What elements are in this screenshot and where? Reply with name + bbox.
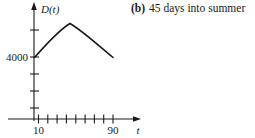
x-tick-label-10: 10 (33, 124, 45, 136)
x-axis-arrowhead (133, 116, 141, 122)
caption-marker: (b) (131, 2, 145, 14)
coordinate-plot: 4000 10 90 D(t) t (0, 0, 255, 138)
x-axis-label: t (136, 124, 140, 136)
y-axis-label: D(t) (40, 3, 60, 16)
y-tick-label-4000: 4000 (6, 51, 29, 63)
data-curve (35, 24, 114, 58)
x-tick-label-90: 90 (108, 124, 120, 136)
figure-caption: (b)45 days into summer (131, 1, 255, 15)
figure-panel: 4000 10 90 D(t) t (b)45 days into summer (0, 0, 255, 138)
caption-text: 45 days into summer (149, 2, 245, 14)
y-axis-arrowhead (31, 2, 37, 10)
